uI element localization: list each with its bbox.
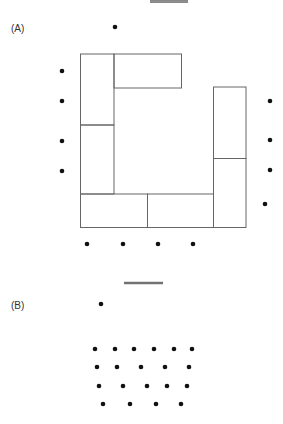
dot [268,138,273,143]
dot [113,25,118,30]
dot [132,347,137,352]
dot [187,365,192,370]
dot [60,169,65,174]
dot [93,347,98,352]
dot [139,365,144,370]
dot [191,242,196,247]
dot [154,402,159,407]
dot [268,99,273,104]
dot [115,365,120,370]
panel-a [60,0,273,246]
block-rect [148,194,214,228]
dot [172,347,177,352]
dot [121,242,126,247]
dot [101,402,106,407]
dot [121,384,126,389]
dot [97,384,102,389]
dot [163,365,168,370]
dot [99,302,104,307]
block-rect [214,87,247,159]
dot [60,99,65,104]
dot [165,384,170,389]
dot [60,69,65,74]
block-rect [81,194,148,228]
block-rect [81,125,115,194]
dot [60,139,65,144]
panel-b-label: (B) [11,300,24,311]
dot [185,384,190,389]
dot [85,242,90,247]
dot [179,402,184,407]
figure-svg [0,0,283,424]
dot [113,347,118,352]
panel-a-label: (A) [11,23,24,34]
dot [268,168,273,173]
block-rect [114,54,182,88]
dot [95,365,100,370]
dot [128,402,133,407]
dot [190,347,195,352]
block-rect [81,54,115,125]
dot [152,347,157,352]
dot [145,384,150,389]
dot [156,242,161,247]
block-rect [214,159,247,228]
panel-b [93,282,195,407]
dot [263,202,268,207]
